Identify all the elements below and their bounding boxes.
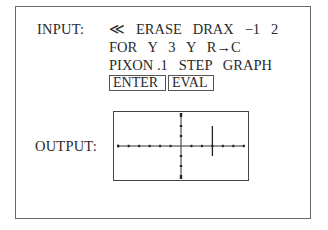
eval-key[interactable]: EVAL — [168, 75, 214, 91]
input-line-2: FOR Y 3 Y R→C — [109, 39, 241, 56]
x-tick — [170, 145, 172, 147]
x-tick — [243, 145, 245, 147]
x-tick — [117, 145, 119, 147]
graph-display — [113, 111, 249, 181]
y-tick — [180, 175, 182, 177]
y-tick — [180, 125, 182, 127]
x-tick — [232, 145, 234, 147]
x-tick — [222, 145, 224, 147]
y-tick — [180, 115, 182, 117]
input-label: INPUT: — [37, 21, 84, 38]
output-label: OUTPUT: — [35, 138, 97, 155]
x-tick — [190, 145, 192, 147]
x-tick — [138, 145, 140, 147]
y-tick — [180, 113, 182, 115]
x-tick — [159, 145, 161, 147]
enter-key[interactable]: ENTER — [109, 75, 166, 91]
input-line-1: ≪ ERASE DRAX −1 2 — [109, 21, 278, 38]
y-tick — [180, 165, 182, 167]
y-tick — [180, 135, 182, 137]
x-tick — [149, 145, 151, 147]
x-tick — [128, 145, 130, 147]
x-tick — [201, 145, 203, 147]
input-line-3: PIXON .1 STEP GRAPH — [109, 57, 272, 74]
y-tick — [180, 177, 182, 179]
y-tick — [180, 155, 182, 157]
